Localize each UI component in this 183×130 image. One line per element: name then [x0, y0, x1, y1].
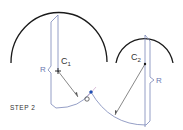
c1-subscript: 1: [68, 61, 71, 67]
radius-bracket-left: [48, 15, 58, 108]
construction-line-c1: [58, 71, 78, 97]
c2-label: C2: [131, 52, 141, 63]
center-marker-c1: [55, 68, 61, 74]
c2-subscript: 2: [138, 57, 141, 63]
construction-line-c2: [115, 64, 145, 115]
radius-bracket-right: [145, 35, 154, 125]
tangent-arc-left: [56, 92, 91, 108]
step-label: STEP 2: [10, 104, 35, 111]
center-marker-c2: [144, 63, 146, 65]
arrowhead-c1: [75, 92, 78, 97]
tangent-point-o-circle: [85, 97, 89, 101]
large-arc-c1: [11, 12, 107, 63]
radius-label-right: R: [156, 76, 162, 85]
small-arc-c2: [116, 39, 173, 63]
radius-label-left: R: [40, 65, 46, 74]
c1-label: C1: [61, 56, 71, 67]
